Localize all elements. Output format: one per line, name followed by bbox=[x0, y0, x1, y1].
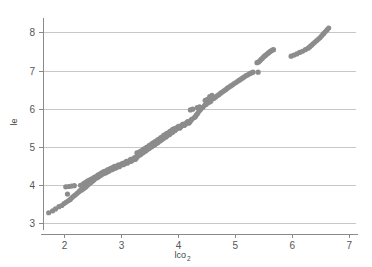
tickmark-group bbox=[39, 33, 349, 238]
y-tick-label-5: 5 bbox=[29, 142, 35, 153]
x-tick-label-2: 2 bbox=[62, 240, 68, 251]
x-axis-title-subscript: 2 bbox=[187, 255, 191, 262]
gridline-group bbox=[43, 33, 356, 223]
data-point bbox=[72, 183, 77, 188]
y-tick-label-7: 7 bbox=[29, 66, 35, 77]
x-tick-label-6: 6 bbox=[289, 240, 295, 251]
data-point bbox=[256, 70, 261, 75]
axis-group bbox=[41, 18, 358, 234]
chart-canvas: 345678 234567 le lco 2 bbox=[0, 0, 372, 267]
data-point bbox=[65, 192, 70, 197]
y-axis-title: le bbox=[9, 118, 19, 125]
scatter-plot-figure: 345678 234567 le lco 2 bbox=[0, 0, 372, 267]
y-tick-label-8: 8 bbox=[29, 27, 35, 38]
y-tick-label-6: 6 bbox=[29, 104, 35, 115]
x-tick-label-3: 3 bbox=[119, 240, 125, 251]
y-tick-label-3: 3 bbox=[29, 218, 35, 229]
y-axis-title-text: le bbox=[9, 118, 19, 125]
data-point bbox=[250, 70, 255, 75]
y-tick-label-group: 345678 bbox=[29, 27, 35, 228]
data-point bbox=[271, 47, 276, 52]
x-tick-label-group: 234567 bbox=[62, 240, 353, 251]
x-tick-label-7: 7 bbox=[346, 240, 352, 251]
data-point-group bbox=[46, 25, 331, 215]
data-point bbox=[190, 107, 195, 112]
x-tick-label-5: 5 bbox=[233, 240, 239, 251]
y-tick-label-4: 4 bbox=[29, 180, 35, 191]
x-axis-title: lco 2 bbox=[174, 250, 191, 262]
data-point bbox=[326, 25, 331, 30]
x-axis-title-text: lco bbox=[174, 250, 186, 260]
